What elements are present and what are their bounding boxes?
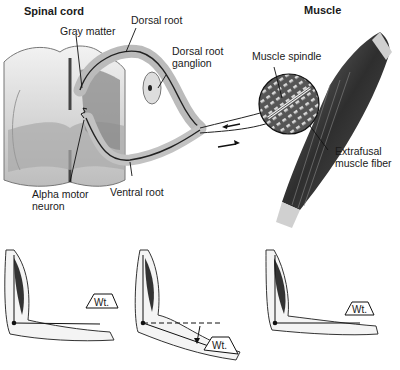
extrafusal-label-1: Extrafusal — [335, 145, 382, 157]
dorsal-root-ganglion-label-1: Dorsal root — [172, 45, 223, 57]
muscle-title: Muscle — [304, 4, 341, 16]
efferent-arrow-icon — [218, 144, 236, 147]
gray-matter-label: Gray matter — [60, 25, 115, 37]
weight-label-middle: Wt. — [212, 340, 227, 352]
arm-left — [5, 250, 118, 341]
elbow-pivot — [12, 321, 17, 326]
ventral-root-label: Ventral root — [110, 186, 164, 198]
spinal-cord-title: Spinal cord — [24, 5, 84, 17]
arm-right — [266, 250, 378, 335]
extrafusal-label-2: muscle fiber — [335, 157, 392, 169]
alpha-motor-neuron-label-2: neuron — [32, 200, 65, 212]
weight-label-right: Wt. — [352, 304, 367, 316]
spinal-cord-section — [4, 46, 125, 186]
dorsal-root-ganglion-label-2: ganglion — [172, 57, 212, 69]
weight-label-left: Wt. — [94, 297, 109, 309]
alpha-motor-neuron-label-1: Alpha motor — [32, 188, 89, 200]
stretch-reflex-figure: Spinal cord Muscle Dorsal root Gray matt… — [0, 0, 400, 370]
muscle-spindle-label: Muscle spindle — [252, 50, 321, 62]
dorsal-root-label: Dorsal root — [131, 14, 182, 26]
muscle-spindle-magnified — [259, 74, 319, 134]
